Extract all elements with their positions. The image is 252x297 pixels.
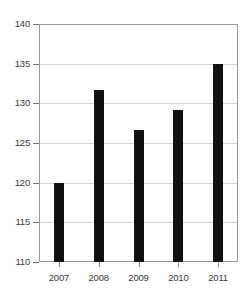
y-axis-label: 130: [0, 97, 30, 108]
x-axis-label: 2011: [198, 272, 238, 283]
x-tick-2008: [99, 262, 100, 267]
bar-2007: [54, 183, 64, 262]
x-tick-2009: [139, 262, 140, 267]
gridline-135: [40, 64, 237, 65]
y-tick-125: [33, 143, 39, 144]
x-tick-2010: [178, 262, 179, 267]
y-tick-140: [33, 24, 39, 25]
gridline-130: [40, 103, 237, 104]
y-axis-label: 115: [0, 216, 30, 227]
y-tick-115: [33, 222, 39, 223]
bar-2011: [213, 64, 223, 262]
y-tick-120: [33, 183, 39, 184]
y-tick-110: [33, 262, 39, 263]
bar-2008: [94, 90, 104, 262]
y-tick-130: [33, 103, 39, 104]
bar-2010: [173, 110, 183, 262]
y-axis-label: 135: [0, 58, 30, 69]
x-tick-2011: [218, 262, 219, 267]
x-axis-label: 2010: [158, 272, 198, 283]
bar-chart: 110115120125130135140 200720082009201020…: [0, 0, 252, 297]
y-axis-label: 120: [0, 177, 30, 188]
chart-title-clipped: [0, 0, 252, 3]
x-axis-label: 2007: [39, 272, 79, 283]
y-axis-label: 110: [0, 256, 30, 267]
y-axis-label: 125: [0, 137, 30, 148]
x-axis-label: 2009: [119, 272, 159, 283]
y-axis-label: 140: [0, 18, 30, 29]
y-tick-135: [33, 64, 39, 65]
x-tick-2007: [59, 262, 60, 267]
bar-2009: [134, 130, 144, 262]
x-axis-label: 2008: [79, 272, 119, 283]
